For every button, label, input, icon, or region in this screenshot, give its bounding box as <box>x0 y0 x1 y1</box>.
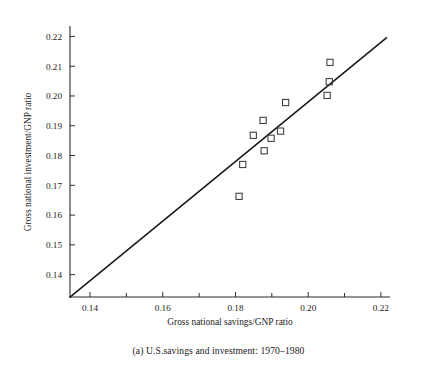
data-point <box>261 148 267 154</box>
x-axis-ticks: 0.140.160.180.200.22 <box>82 292 389 313</box>
data-point <box>236 193 242 199</box>
x-tick-label: 0.18 <box>227 303 243 313</box>
y-tick-label: 0.22 <box>46 32 62 42</box>
x-tick-label: 0.20 <box>300 303 316 313</box>
y-tick-label: 0.17 <box>46 181 62 191</box>
data-point <box>283 99 289 105</box>
x-tick-label: 0.16 <box>155 303 171 313</box>
figure-caption: (a) U.S.savings and investment: 1970–198… <box>0 345 437 356</box>
y-tick-label: 0.19 <box>46 121 62 131</box>
y-axis-title: Gross national investment/GNP ratio <box>23 92 33 231</box>
data-point <box>240 161 246 167</box>
x-tick-label: 0.22 <box>373 303 389 313</box>
data-point <box>250 132 256 138</box>
scatter-plot: 0.140.150.160.170.180.190.200.210.22 0.1… <box>0 0 437 374</box>
forty-five-degree-line <box>70 38 386 297</box>
x-tick-label: 0.14 <box>82 303 98 313</box>
y-axis-ticks: 0.140.150.160.170.180.190.200.210.22 <box>46 32 75 280</box>
y-tick-label: 0.16 <box>46 210 62 220</box>
y-tick-label: 0.20 <box>46 91 62 101</box>
x-axis-title: Gross national savings/GNP ratio <box>167 317 293 327</box>
y-tick-label: 0.14 <box>46 270 62 280</box>
data-point <box>327 59 333 65</box>
figure-container: 0.140.150.160.170.180.190.200.210.22 0.1… <box>0 0 437 374</box>
data-point <box>277 128 283 134</box>
data-point-group <box>236 59 333 199</box>
data-point <box>268 135 274 141</box>
data-point <box>260 117 266 123</box>
y-tick-label: 0.15 <box>46 240 62 250</box>
y-tick-label: 0.21 <box>46 62 62 72</box>
y-tick-label: 0.18 <box>46 151 62 161</box>
data-point <box>324 92 330 98</box>
